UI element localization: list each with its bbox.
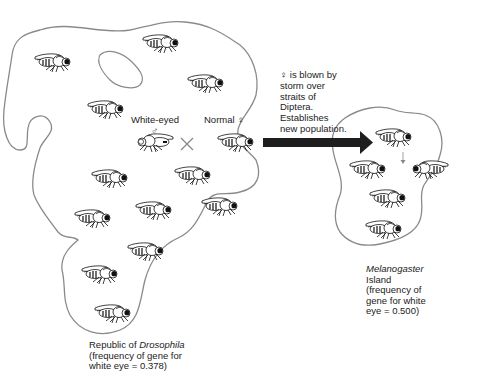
founder-effect-diagram: White-eyed ♂ Normal ♀ ♀ is blown by stor… [0, 0, 479, 385]
caption-line: new population. [280, 124, 347, 135]
caption-line: storm over [280, 81, 347, 92]
diagram-canvas [0, 0, 479, 385]
new-island-name-italic: Melanogaster [366, 263, 424, 274]
new-population-caption: Melanogaster Island (frequency of gene f… [366, 264, 426, 317]
source-island-outline [4, 22, 259, 334]
male-symbol: ♂ [151, 125, 158, 136]
lake-outline [99, 51, 143, 87]
source-frequency: white eye = 0.378) [89, 361, 185, 372]
cross-pair [138, 134, 253, 152]
migration-caption: ♀ is blown by storm over straits of Dipt… [280, 70, 347, 135]
source-name-prefix: Republic of [89, 339, 139, 350]
normal-female-label: Normal ♀ [204, 114, 244, 125]
descent-arrow [401, 152, 406, 164]
new-frequency: eye = 0.500) [366, 306, 426, 317]
white-eyed-label: White-eyed [131, 114, 179, 125]
source-name: Republic of Drosophila [89, 340, 185, 351]
caption-line: (frequency of [366, 285, 426, 296]
source-population-flies [35, 35, 237, 323]
source-population-caption: Republic of Drosophila (frequency of gen… [89, 340, 185, 372]
source-name-italic: Drosophila [139, 339, 184, 350]
